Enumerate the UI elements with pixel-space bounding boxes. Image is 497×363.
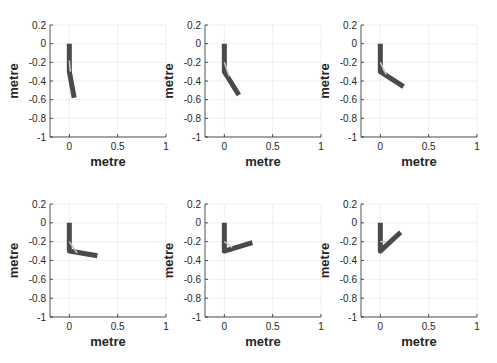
y-tick-label: -0.4 <box>29 76 47 87</box>
y-tick-label: 0 <box>195 38 201 49</box>
y-tick-label: -0.2 <box>29 57 47 68</box>
y-tick-label: 0 <box>40 38 46 49</box>
y-tick-label: -0.4 <box>29 255 47 266</box>
y-tick-label: -0.2 <box>184 236 202 247</box>
x-axis-label: metre <box>90 334 125 349</box>
y-tick-label: 0 <box>351 217 357 228</box>
y-tick-label: -1 <box>348 132 357 143</box>
y-tick-label: -1 <box>192 132 201 143</box>
y-tick-label: -0.8 <box>340 293 358 304</box>
subplot-5: 0.20-0.2-0.4-0.6-0.8-100.51metremetre <box>161 199 324 350</box>
subplot-1: 0.20-0.2-0.4-0.6-0.8-100.51metremetre <box>6 20 169 170</box>
y-tick-label: -1 <box>192 312 201 323</box>
arm-line <box>69 223 97 256</box>
y-tick-label: 0 <box>351 38 357 49</box>
y-tick-label: 0 <box>195 217 201 228</box>
x-tick-label: 1 <box>163 141 169 152</box>
y-axis-label: metre <box>6 63 21 98</box>
arm-line <box>380 44 403 87</box>
y-axis-label: metre <box>6 243 21 278</box>
y-tick-label: -0.2 <box>29 236 47 247</box>
y-tick-label: 0.2 <box>187 20 201 31</box>
arm-line <box>224 223 252 251</box>
x-tick-label: 0.5 <box>266 321 280 332</box>
y-tick-label: -0.6 <box>184 94 202 105</box>
y-tick-label: -0.2 <box>340 57 358 68</box>
y-tick-label: -0.2 <box>340 236 358 247</box>
x-tick-label: 0 <box>67 141 73 152</box>
y-axis-label: metre <box>317 243 332 278</box>
x-tick-label: 0.5 <box>422 321 436 332</box>
y-tick-label: -0.4 <box>340 255 358 266</box>
y-tick-label: -0.8 <box>184 113 202 124</box>
y-tick-label: -0.4 <box>340 76 358 87</box>
subplot-6: 0.20-0.2-0.4-0.6-0.8-100.51metremetre <box>317 199 480 350</box>
y-tick-label: 0.2 <box>187 199 201 210</box>
y-tick-label: 0 <box>40 217 46 228</box>
x-tick-label: 0 <box>378 321 384 332</box>
y-axis-label: metre <box>161 243 176 278</box>
y-tick-label: -0.4 <box>184 255 202 266</box>
figure: 0.20-0.2-0.4-0.6-0.8-100.51metremetre0.2… <box>0 0 497 363</box>
y-tick-label: -0.4 <box>184 76 202 87</box>
y-axis-label: metre <box>317 63 332 98</box>
y-tick-label: -0.8 <box>184 293 202 304</box>
x-axis-label: metre <box>401 334 436 349</box>
x-tick-label: 1 <box>163 321 169 332</box>
x-tick-label: 0 <box>67 321 73 332</box>
x-tick-label: 1 <box>318 321 324 332</box>
y-tick-label: -1 <box>37 312 46 323</box>
x-tick-label: 0.5 <box>111 141 125 152</box>
subplot-2: 0.20-0.2-0.4-0.6-0.8-100.51metremetre <box>161 20 324 170</box>
y-axis-label: metre <box>161 63 176 98</box>
x-tick-label: 0.5 <box>422 141 436 152</box>
y-tick-label: -0.6 <box>29 94 47 105</box>
x-tick-label: 0.5 <box>111 321 125 332</box>
y-tick-label: -0.6 <box>340 274 358 285</box>
x-axis-label: metre <box>90 154 125 169</box>
y-tick-label: 0.2 <box>32 199 46 210</box>
x-tick-label: 1 <box>474 141 480 152</box>
x-tick-label: 0 <box>378 141 384 152</box>
x-axis-label: metre <box>245 154 280 169</box>
x-tick-label: 0 <box>222 321 228 332</box>
y-tick-label: -0.8 <box>340 113 358 124</box>
y-tick-label: -0.6 <box>340 94 358 105</box>
x-tick-label: 0 <box>222 141 228 152</box>
y-tick-label: 0.2 <box>343 20 357 31</box>
inner-line <box>69 60 70 71</box>
y-tick-label: -0.6 <box>29 274 47 285</box>
y-tick-label: -0.2 <box>184 57 202 68</box>
y-tick-label: -0.8 <box>29 113 47 124</box>
y-tick-label: -0.8 <box>29 293 47 304</box>
arm-line <box>380 223 400 251</box>
x-axis-label: metre <box>245 334 280 349</box>
x-axis-label: metre <box>401 154 436 169</box>
y-tick-label: 0.2 <box>32 20 46 31</box>
x-tick-label: 0.5 <box>266 141 280 152</box>
y-tick-label: -1 <box>37 132 46 143</box>
y-tick-label: -0.6 <box>184 274 202 285</box>
x-tick-label: 1 <box>474 321 480 332</box>
y-tick-label: 0.2 <box>343 199 357 210</box>
subplot-3: 0.20-0.2-0.4-0.6-0.8-100.51metremetre <box>317 20 480 170</box>
subplot-4: 0.20-0.2-0.4-0.6-0.8-100.51metremetre <box>6 199 169 350</box>
y-tick-label: -1 <box>348 312 357 323</box>
x-tick-label: 1 <box>318 141 324 152</box>
